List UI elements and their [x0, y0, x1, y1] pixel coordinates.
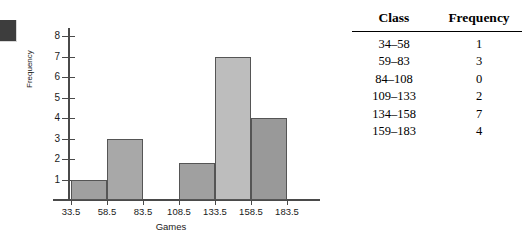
y-tick-label: 7	[38, 52, 60, 62]
x-tick-label: 108.5	[162, 207, 196, 217]
y-tick-label: 8	[38, 31, 60, 41]
x-tick-label: 133.5	[198, 207, 232, 217]
y-tick-label: 1	[38, 175, 60, 185]
column-header-frequency: Frequency	[436, 10, 522, 32]
table-header-row: Class Frequency	[352, 10, 522, 32]
histogram-bar	[179, 163, 215, 200]
y-axis-title: Frequency	[26, 50, 34, 88]
cell-frequency: 4	[436, 123, 522, 140]
x-tick-label: 58.5	[90, 207, 124, 217]
table-body: 34–58159–83384–1080109–1332134–1587159–1…	[352, 32, 522, 141]
cell-frequency: 3	[436, 53, 522, 70]
cell-class: 134–158	[352, 105, 436, 122]
y-tick-label: 2	[38, 154, 60, 164]
table-row: 84–1080	[352, 71, 522, 88]
table-row: 59–833	[352, 53, 522, 70]
histogram-bar	[107, 139, 143, 200]
y-tick-label: 6	[38, 72, 60, 82]
cell-frequency: 2	[436, 88, 522, 105]
table-row: 109–1332	[352, 88, 522, 105]
cell-frequency: 1	[436, 32, 522, 54]
histogram-chart: Frequency 12345678 33.558.583.5108.5133.…	[0, 0, 340, 245]
cell-frequency: 0	[436, 71, 522, 88]
table-row: 34–581	[352, 32, 522, 54]
cell-class: 59–83	[352, 53, 436, 70]
table-row: 134–1587	[352, 105, 522, 122]
x-tick-label: 83.5	[126, 207, 160, 217]
cell-frequency: 7	[436, 105, 522, 122]
cell-class: 159–183	[352, 123, 436, 140]
plot-area	[68, 28, 320, 200]
cell-class: 34–58	[352, 32, 436, 54]
x-tick-label: 183.5	[270, 207, 304, 217]
cell-class: 109–133	[352, 88, 436, 105]
y-tick-label: 3	[38, 134, 60, 144]
x-tick-label: 158.5	[234, 207, 268, 217]
cell-class: 84–108	[352, 71, 436, 88]
y-tick-label: 5	[38, 93, 60, 103]
x-tick-label: 33.5	[54, 207, 88, 217]
table-row: 159–1834	[352, 123, 522, 140]
column-header-class: Class	[352, 10, 436, 32]
histogram-bar	[215, 57, 251, 200]
histogram-bar	[251, 118, 287, 200]
histogram-bar	[71, 180, 107, 200]
x-axis-title: Games	[156, 222, 187, 232]
frequency-table: Class Frequency 34–58159–83384–1080109–1…	[352, 10, 522, 140]
y-tick-label: 4	[38, 113, 60, 123]
